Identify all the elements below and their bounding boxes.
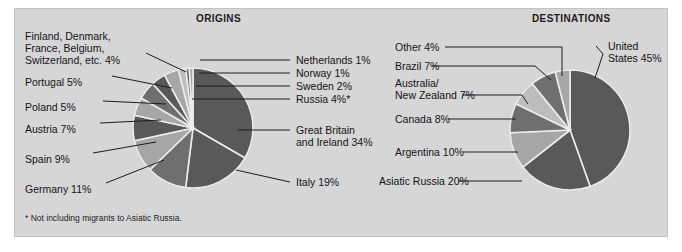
figure-root: ORIGINS DESTINATIONS Finland, Denmark, F… (0, 0, 682, 252)
footnote: * Not including migrants to Asiatic Russ… (25, 213, 182, 223)
leader-finland (146, 53, 186, 72)
destinations-label-brazil: Brazil 7% (395, 60, 439, 73)
leader-us (595, 46, 603, 78)
origins-label-portugal: Portugal 5% (25, 76, 82, 89)
destinations-label-united-states-line2: States 45% (608, 52, 662, 65)
origins-label-sweden: Sweden 2% (296, 80, 352, 93)
origins-label-finland-line3: Switzerland, etc. 4% (25, 54, 120, 67)
destinations-label-united-states-line1: United (608, 40, 638, 53)
destinations-label-other: Other 4% (395, 41, 439, 54)
origins-label-finland-line1: Finland, Denmark, (25, 30, 111, 43)
origins-label-norway: Norway 1% (296, 67, 350, 80)
destinations-label-anz-line2: New Zealand 7% (395, 89, 475, 102)
destinations-label-canada: Canada 8% (395, 113, 450, 126)
destinations-label-argentina: Argentina 10% (395, 146, 464, 159)
origins-label-netherlands: Netherlands 1% (296, 54, 371, 67)
origins-title: ORIGINS (196, 13, 241, 24)
origins-label-finland-line2: France, Belgium, (25, 42, 104, 55)
origins-label-poland: Poland 5% (25, 101, 76, 114)
origins-label-russia: Russia 4%* (296, 93, 350, 106)
destinations-pie (509, 69, 631, 191)
leader-other (445, 47, 562, 76)
destinations-label-anz-line1: Australia/ (395, 77, 439, 90)
origins-label-austria: Austria 7% (25, 123, 76, 136)
origins-label-germany: Germany 11% (25, 183, 91, 196)
origins-label-great-britain-line1: Great Britain (296, 124, 355, 137)
origins-pie (132, 67, 254, 189)
destinations-label-asiatic-russia: Asiatic Russia 20% (379, 175, 469, 188)
origins-label-italy: Italy 19% (296, 176, 339, 189)
origins-label-spain: Spain 9% (25, 153, 70, 166)
destinations-title: DESTINATIONS (532, 13, 611, 24)
leader-italy (236, 170, 290, 182)
leader-brazil (432, 66, 551, 80)
origins-label-great-britain-line2: and Ireland 34% (296, 136, 372, 149)
